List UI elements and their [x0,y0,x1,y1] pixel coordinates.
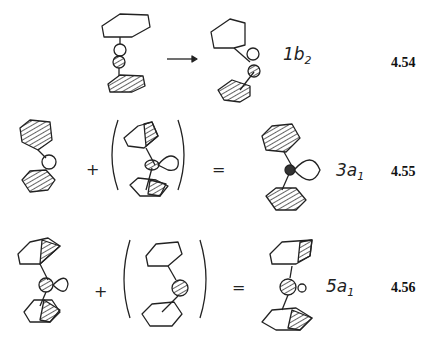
bent-fragment-dz2 [18,238,68,322]
linear-metallocene [102,14,150,92]
equals-sign-row3: = [232,278,245,297]
equation-number-4-54: 4.54 [391,55,416,71]
label-sub: 1 [347,286,354,299]
bent-fragment-pz [124,122,178,196]
plus-sign-row3: + [94,282,107,301]
bent-fragment-s [20,120,56,192]
orbital-label-3a1: 3a1 [336,160,364,183]
label-main: 5a [326,276,347,296]
label-sub: 2 [305,54,312,67]
label-sub: 1 [357,170,364,183]
orbital-label-1b2: 1b2 [283,44,312,67]
equation-number-4-55: 4.55 [391,164,416,180]
bent-fragment-pz2 [142,242,188,326]
label-main: 1b [283,44,305,64]
bent-metallocene-3a1 [262,124,320,210]
label-main: 3a [336,160,357,180]
equation-number-4-56: 4.56 [391,280,416,296]
equals-sign-row2: = [212,160,225,179]
bent-metallocene-1b2 [211,19,260,102]
orbital-label-5a1: 5a1 [326,276,354,299]
bent-metallocene-5a1 [262,240,312,330]
plus-sign-row2: + [86,160,99,179]
